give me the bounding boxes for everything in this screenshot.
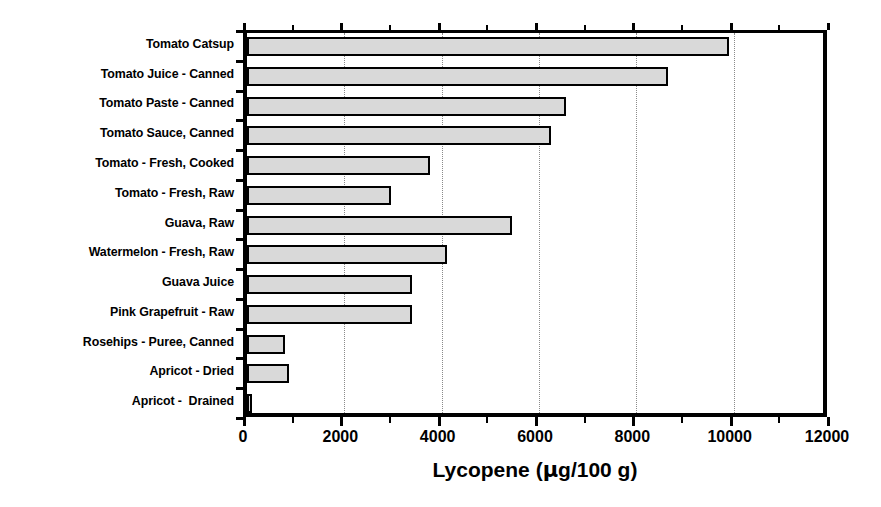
plot-area — [243, 30, 827, 417]
x-tick-label: 12000 — [805, 428, 850, 446]
y-tick — [236, 209, 243, 212]
bar — [247, 186, 391, 205]
bar — [247, 126, 551, 145]
x-tick-minor-top — [681, 25, 683, 30]
x-axis-title-suffix: g/100 g) — [558, 458, 637, 481]
bar — [247, 216, 512, 235]
micro-symbol: µ — [543, 458, 558, 482]
x-tick-label: 8000 — [615, 428, 651, 446]
category-label: Rosehips - Puree, Canned — [0, 336, 234, 349]
y-tick — [236, 357, 243, 360]
y-tick — [236, 90, 243, 93]
y-tick — [236, 238, 243, 241]
category-axis-labels: Tomato CatsupTomato Juice - CannedTomato… — [0, 30, 234, 417]
x-tick-major-top — [438, 23, 441, 30]
bar — [247, 394, 252, 413]
x-tick-major — [827, 417, 830, 426]
bar-row — [247, 271, 823, 301]
bar-row — [247, 93, 823, 123]
x-tick-label: 0 — [239, 428, 248, 446]
x-tick-label: 6000 — [517, 428, 553, 446]
bar-row — [247, 152, 823, 182]
x-tick-minor-top — [486, 25, 488, 30]
x-tick-minor — [389, 417, 391, 423]
bar — [247, 67, 668, 86]
x-tick-major-top — [827, 23, 830, 30]
bar — [247, 275, 412, 294]
category-label: Tomato Paste - Canned — [0, 97, 234, 110]
y-tick — [236, 328, 243, 331]
bar-row — [247, 390, 823, 420]
bar-row — [247, 33, 823, 63]
x-tick-minor — [486, 417, 488, 423]
y-tick — [236, 298, 243, 301]
bar-row — [247, 301, 823, 331]
y-tick — [236, 30, 243, 33]
bar-row — [247, 212, 823, 242]
y-tick — [236, 60, 243, 63]
bar-row — [247, 182, 823, 212]
x-tick-major — [340, 417, 343, 426]
bar-row — [247, 122, 823, 152]
category-label: Tomato - Fresh, Cooked — [0, 157, 234, 170]
bar — [247, 245, 447, 264]
x-tick-minor-top — [292, 25, 294, 30]
category-label: Pink Grapefruit - Raw — [0, 306, 234, 319]
bar — [247, 305, 412, 324]
x-tick-major — [535, 417, 538, 426]
category-label: Watermelon - Fresh, Raw — [0, 246, 234, 259]
bar-row — [247, 360, 823, 390]
category-label: Tomato Sauce, Canned — [0, 127, 234, 140]
x-axis-title-prefix: Lycopene ( — [433, 458, 543, 481]
x-axis-title: Lycopene (µg/100 g) — [243, 458, 827, 482]
bar — [247, 364, 289, 383]
x-tick-minor — [681, 417, 683, 423]
bar — [247, 37, 729, 56]
bar — [247, 97, 566, 116]
x-tick-major — [438, 417, 441, 426]
x-tick-major-top — [535, 23, 538, 30]
x-tick-minor — [292, 417, 294, 423]
bar-row — [247, 331, 823, 361]
y-tick — [236, 119, 243, 122]
x-tick-minor-top — [778, 25, 780, 30]
x-tick-label: 4000 — [420, 428, 456, 446]
bar-row — [247, 63, 823, 93]
plot-inner — [247, 33, 823, 413]
x-tick-major-top — [632, 23, 635, 30]
category-label: Tomato - Fresh, Raw — [0, 187, 234, 200]
x-tick-minor-top — [584, 25, 586, 30]
category-label: Tomato Catsup — [0, 38, 234, 51]
x-tick-major — [730, 417, 733, 426]
y-tick — [236, 179, 243, 182]
bar-row — [247, 241, 823, 271]
category-label: Apricot - Dried — [0, 365, 234, 378]
x-tick-major-top — [730, 23, 733, 30]
x-tick-major-top — [243, 23, 246, 30]
x-tick-major — [632, 417, 635, 426]
lycopene-bar-chart: Tomato CatsupTomato Juice - CannedTomato… — [0, 0, 881, 507]
y-tick — [236, 268, 243, 271]
y-tick — [236, 417, 243, 420]
x-tick-major — [243, 417, 246, 426]
category-label: Apricot - Drained — [0, 395, 234, 408]
category-label: Guava, Raw — [0, 217, 234, 230]
y-tick — [236, 149, 243, 152]
x-tick-minor — [584, 417, 586, 423]
x-tick-label: 2000 — [323, 428, 359, 446]
bar — [247, 156, 430, 175]
x-tick-major-top — [340, 23, 343, 30]
category-label: Guava Juice — [0, 276, 234, 289]
category-label: Tomato Juice - Canned — [0, 68, 234, 81]
bar — [247, 335, 285, 354]
y-tick — [236, 387, 243, 390]
x-tick-minor — [778, 417, 780, 423]
x-tick-minor-top — [389, 25, 391, 30]
x-tick-label: 10000 — [707, 428, 752, 446]
